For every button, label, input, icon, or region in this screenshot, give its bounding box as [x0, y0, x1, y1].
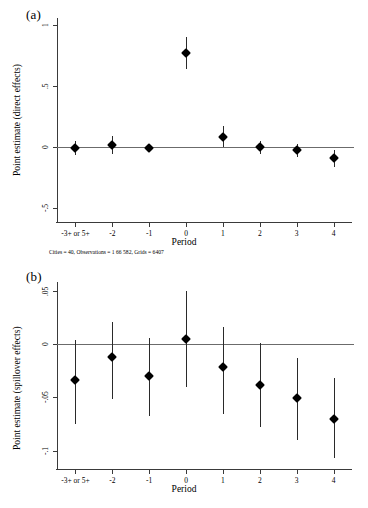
panel-a-x-tick [149, 223, 150, 227]
panel-b-x-tick [112, 470, 113, 474]
panel-a-y-tick [53, 25, 57, 26]
panel-b-plot-area: .050-.05-.1-3+ or 5+-2-101234 [57, 282, 352, 470]
panel-b-point-estimate-marker [218, 363, 228, 373]
panel-b-x-axis-label: Period [0, 484, 368, 494]
panel-b-point-estimate-marker [70, 375, 80, 385]
panel-a-point-estimate-marker [70, 143, 80, 153]
panel-a-point-estimate-marker [329, 153, 339, 163]
panel-b-y-axis-line [57, 282, 58, 470]
panel-a-footnote: Cities = 40, Observations = 1 66 582, Gr… [49, 249, 164, 255]
panel-b-point-estimate-marker [144, 371, 154, 381]
panel-a-point-estimate-marker [218, 132, 228, 142]
panel-b-point-estimate-marker [292, 393, 302, 403]
panel-b: (b) Point estimate (spillover effects) .… [0, 262, 368, 508]
panel-b-y-tick [53, 397, 57, 398]
panel-b-x-tick [223, 470, 224, 474]
panel-b-zero-reference-line [57, 344, 354, 345]
panel-a-x-tick [334, 223, 335, 227]
panel-a-y-tick [53, 86, 57, 87]
panel-b-x-tick [75, 470, 76, 474]
panel-b-y-tick-label: .05 [41, 282, 50, 300]
figure-root: (a) Point estimate (direct effects) 1.50… [0, 0, 368, 508]
panel-b-tag: (b) [26, 269, 42, 285]
panel-a-point-estimate-marker [144, 143, 154, 153]
panel-a-point-estimate-marker [255, 142, 265, 152]
panel-b-y-tick-label: -.05 [41, 388, 50, 406]
panel-a-x-tick [223, 223, 224, 227]
panel-a-y-tick-label: 1 [41, 16, 50, 34]
panel-a-x-axis-line [56, 222, 352, 223]
panel-a-plot-area: 1.50-.5-3+ or 5+-2-101234 [57, 18, 352, 223]
panel-b-y-tick [53, 451, 57, 452]
panel-a-x-tick [186, 223, 187, 227]
panel-b-x-tick [260, 470, 261, 474]
panel-a-y-tick-label: -.5 [41, 199, 50, 217]
panel-a-y-tick-label: .5 [41, 77, 50, 95]
panel-b-point-estimate-marker [329, 414, 339, 424]
panel-a-y-tick-label: 0 [41, 138, 50, 156]
panel-a-y-axis-line [57, 18, 58, 223]
panel-b-x-tick [186, 470, 187, 474]
panel-a-y-tick [53, 208, 57, 209]
panel-a-tag: (a) [26, 7, 41, 23]
panel-a-point-estimate-marker [107, 140, 117, 150]
panel-a: (a) Point estimate (direct effects) 1.50… [0, 0, 368, 262]
panel-a-y-axis-label: Point estimate (direct effects) [12, 40, 22, 200]
panel-b-y-tick-label: -.1 [41, 442, 50, 460]
panel-b-x-tick [334, 470, 335, 474]
panel-b-point-estimate-marker [181, 334, 191, 344]
panel-b-x-tick [149, 470, 150, 474]
panel-b-y-tick [53, 291, 57, 292]
panel-b-y-axis-label: Point estimate (spillover effects) [12, 304, 22, 472]
panel-a-x-tick [112, 223, 113, 227]
panel-b-x-axis-line [56, 469, 352, 470]
panel-a-x-tick [75, 223, 76, 227]
panel-b-y-tick-label: 0 [41, 335, 50, 353]
panel-a-x-tick [297, 223, 298, 227]
panel-b-point-estimate-marker [255, 380, 265, 390]
panel-a-zero-reference-line [57, 147, 354, 148]
panel-a-x-tick [260, 223, 261, 227]
panel-a-x-axis-label: Period [0, 237, 368, 247]
panel-a-point-estimate-marker [181, 48, 191, 58]
panel-b-point-estimate-marker [107, 352, 117, 362]
panel-b-x-tick [297, 470, 298, 474]
